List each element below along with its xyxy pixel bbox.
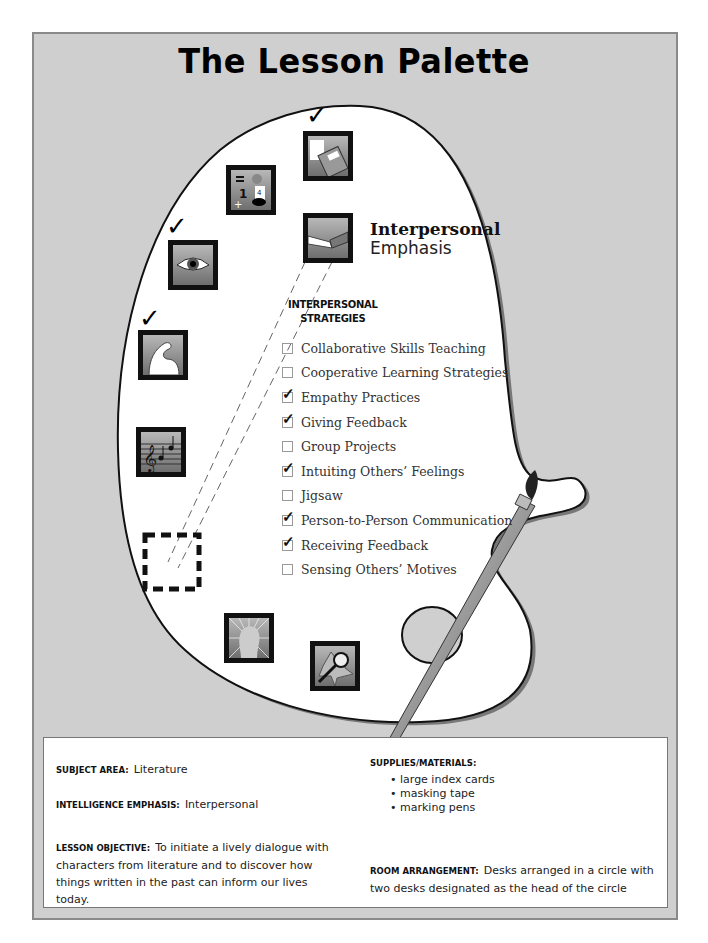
intelligence-emphasis-label: INTELLIGENCE EMPHASIS: (56, 800, 180, 810)
lesson-info-box: SUBJECT AREA: Literature INTELLIGENCE EM… (43, 737, 668, 908)
strategy-label: Group Projects (301, 439, 396, 454)
checkbox[interactable] (282, 564, 293, 575)
strategy-label: Collaborative Skills Teaching (301, 341, 486, 356)
supplies-field: SUPPLIES/MATERIALS: large index cards ma… (370, 756, 495, 815)
verbal-linguistic-book-icon[interactable] (303, 131, 353, 181)
check-mark-icon: ✓ (139, 305, 161, 331)
room-arrangement-field: ROOM ARRANGEMENT: Desks arranged in a ci… (370, 861, 662, 896)
strategy-item[interactable]: Group Projects (282, 434, 512, 459)
supplies-label: SUPPLIES/MATERIALS: (370, 756, 495, 771)
strategy-label: Receiving Feedback (301, 538, 428, 553)
strategies-heading-line1: INTERPERSONAL (288, 298, 378, 312)
strategy-item[interactable]: Jigsaw (282, 484, 512, 509)
interpersonal-handshake-icon[interactable] (303, 213, 353, 263)
logical-mathematical-icon[interactable]: 14+ (226, 165, 276, 215)
checkbox-checked[interactable]: ✓ (282, 392, 293, 403)
lesson-objective-field: LESSON OBJECTIVE: To initiate a lively d… (56, 838, 331, 907)
check-mark-icon: ✓ (166, 213, 188, 239)
checkbox[interactable] (282, 343, 293, 354)
strategy-label: Empathy Practices (301, 390, 420, 405)
intelligence-emphasis-value: Interpersonal (185, 798, 258, 811)
checkbox[interactable] (282, 441, 293, 452)
strategy-label: Sensing Others’ Motives (301, 562, 457, 577)
check-mark-icon: ✓ (282, 410, 295, 428)
checkbox[interactable] (282, 367, 293, 378)
room-arrangement-label: ROOM ARRANGEMENT: (370, 866, 479, 876)
strategy-label: Jigsaw (301, 488, 343, 503)
strategies-heading-line2: STRATEGIES (288, 312, 378, 326)
strategy-item[interactable]: ✓Intuiting Others’ Feelings (282, 459, 512, 484)
intelligence-emphasis-field: INTELLIGENCE EMPHASIS: Interpersonal (56, 795, 258, 813)
check-mark-icon: ✓ (282, 533, 295, 551)
checkbox-checked[interactable]: ✓ (282, 540, 293, 551)
visual-spatial-eye-icon[interactable] (168, 240, 218, 290)
strategy-item[interactable]: Sensing Others’ Motives (282, 557, 512, 582)
strategy-label: Intuiting Others’ Feelings (301, 464, 464, 479)
strategies-checklist: Collaborative Skills Teaching Cooperativ… (282, 336, 512, 582)
musical-notes-icon[interactable]: 𝄞 (136, 427, 186, 477)
svg-text:+: + (234, 199, 242, 210)
supply-item: large index cards (390, 773, 495, 787)
subject-area-value: Literature (134, 763, 188, 776)
emphasis-title: Interpersonal (370, 219, 500, 239)
svg-text:𝄞: 𝄞 (143, 444, 157, 472)
checkbox[interactable] (282, 490, 293, 501)
strategy-label: Person-to-Person Communication (301, 513, 512, 528)
lesson-objective-label: LESSON OBJECTIVE: (56, 843, 150, 853)
supplies-list: large index cards masking tape marking p… (370, 773, 495, 815)
checkbox-checked[interactable]: ✓ (282, 515, 293, 526)
naturalist-leaf-magnifier-icon[interactable] (310, 641, 360, 691)
strategy-item[interactable]: Cooperative Learning Strategies (282, 361, 512, 386)
supply-item: masking tape (390, 787, 495, 801)
strategy-item[interactable]: ✓Empathy Practices (282, 385, 512, 410)
strategies-heading: INTERPERSONAL STRATEGIES (288, 298, 378, 326)
supply-item: marking pens (390, 801, 495, 815)
strategy-label: Cooperative Learning Strategies (301, 365, 508, 380)
check-mark-icon: ✓ (282, 385, 295, 403)
svg-text:4: 4 (257, 189, 262, 197)
check-mark-icon: ✓ (282, 508, 295, 526)
bodily-kinesthetic-arm-icon[interactable] (138, 330, 188, 380)
strategy-label: Giving Feedback (301, 415, 407, 430)
strategy-item[interactable]: ✓Receiving Feedback (282, 533, 512, 558)
check-mark-icon: ✓ (306, 102, 328, 128)
strategy-item[interactable]: Collaborative Skills Teaching (282, 336, 512, 361)
subject-area-field: SUBJECT AREA: Literature (56, 760, 188, 778)
check-mark-icon: ✓ (282, 459, 295, 477)
emphasis-subtitle: Emphasis (370, 238, 452, 258)
intrapersonal-head-icon[interactable] (224, 613, 274, 663)
checkbox-checked[interactable]: ✓ (282, 466, 293, 477)
checkbox-checked[interactable]: ✓ (282, 417, 293, 428)
strategy-item[interactable]: ✓Giving Feedback (282, 410, 512, 435)
strategy-item[interactable]: ✓Person-to-Person Communication (282, 508, 512, 533)
subject-area-label: SUBJECT AREA: (56, 765, 129, 775)
